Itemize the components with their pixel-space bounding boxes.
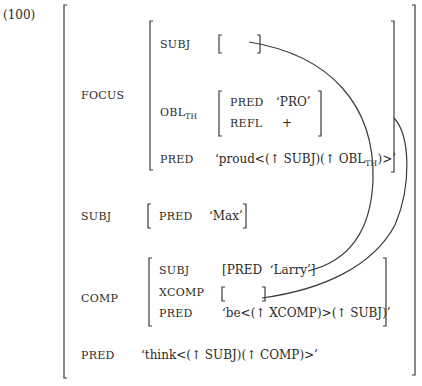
comp-left-bracket — [149, 258, 152, 326]
focus-subj-left-bracket — [219, 35, 222, 53]
outer-right-bracket — [412, 5, 415, 375]
focus-left-bracket — [150, 21, 153, 170]
obl-right-bracket — [318, 91, 321, 136]
obl-left-bracket — [219, 91, 222, 136]
comp-right-bracket — [383, 258, 386, 326]
avm-brackets — [0, 0, 422, 386]
xcomp-left-bracket — [222, 287, 225, 301]
arc-focus-subj-to-comp-subj — [249, 42, 373, 271]
outer-subj-right-bracket — [243, 204, 246, 228]
outer-subj-left-bracket — [148, 204, 151, 228]
focus-right-bracket — [391, 21, 394, 172]
arc-focus-to-xcomp — [262, 118, 407, 298]
outer-left-bracket — [64, 5, 67, 378]
xcomp-right-bracket — [262, 287, 265, 301]
